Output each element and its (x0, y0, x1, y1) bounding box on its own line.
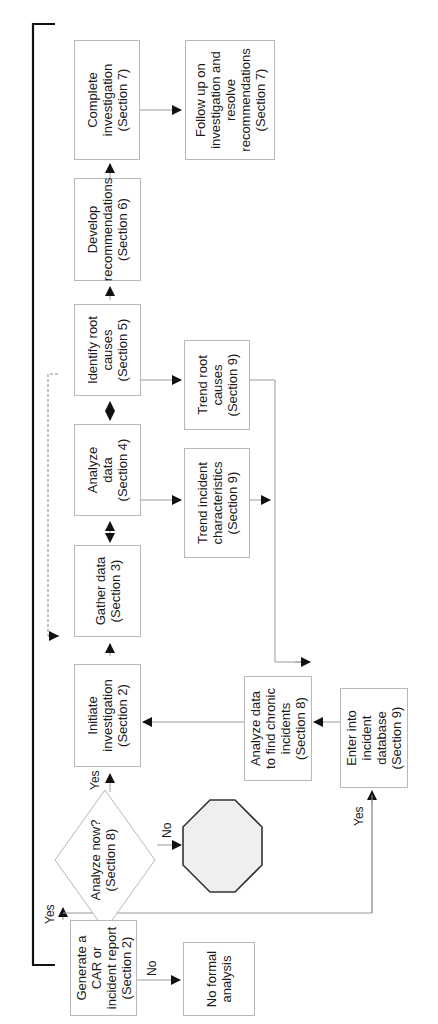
generate-report-box: Generate a CAR or incident report (Secti… (70, 920, 137, 1016)
analyze-now-no-label: No (160, 823, 174, 838)
follow-up-box: Follow up on investigation and resolve r… (185, 40, 275, 160)
report-no-label: No (145, 961, 159, 976)
stop-octagon (183, 800, 262, 892)
analyze-chronic-incidents-box: Analyze data to find chronic incidents (… (244, 676, 312, 781)
initiate-investigation-box: Initiate investigation (Section 2) (74, 664, 141, 767)
no-formal-analysis-box: No formal analysis (183, 942, 255, 1016)
analyze-now-yes-label: Yes (88, 770, 102, 790)
trend-root-causes-box: Trend root causes (Section 9) (184, 340, 250, 430)
develop-recommendations-box: Develop recommendations (Section 6) (74, 178, 141, 281)
database-yes-label: Yes (352, 806, 366, 826)
complete-investigation-box: Complete investigation (Section 7) (74, 40, 140, 160)
trend-incident-characteristics-box: Trend incident characteristics (Section … (184, 448, 250, 558)
program-frame-bracket (33, 24, 55, 965)
flowchart-canvas: SOURCE™ Methodology Flowchart Overall In… (0, 0, 438, 1024)
identify-root-causes-box: Identify root causes (Section 5) (74, 304, 141, 396)
report-yes-label: Yes (43, 904, 57, 924)
enter-incident-database-box: Enter into incident database (Section 9) (340, 688, 408, 788)
analyze-now-label: Analyze now? (Section 8) (88, 810, 118, 910)
analyze-data-box: Analyze data (Section 4) (74, 424, 141, 516)
gather-data-box: Gather data (Section 3) (74, 545, 141, 637)
